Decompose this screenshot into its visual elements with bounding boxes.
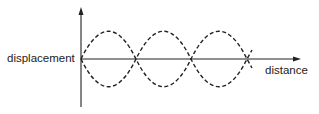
x-axis-arrowhead-icon (293, 57, 301, 62)
y-axis-arrowhead-icon (79, 7, 84, 15)
y-axis-label: displacement (7, 53, 75, 65)
x-axis-label: distance (265, 65, 308, 77)
